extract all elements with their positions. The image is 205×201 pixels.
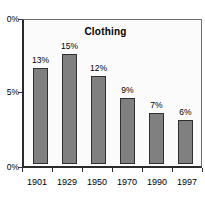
- x-axis-label: 1929: [52, 177, 82, 188]
- bar-value-label: 9%: [113, 86, 142, 95]
- x-tick-mark: [142, 168, 143, 172]
- x-tick-mark: [22, 168, 23, 172]
- bar-value-label: 7%: [142, 101, 171, 110]
- x-tick-mark: [112, 168, 113, 172]
- bar: [149, 113, 164, 164]
- bar-group: 6%: [171, 20, 200, 164]
- x-tick-mark: [172, 168, 173, 172]
- bar-group: 9%: [113, 20, 142, 164]
- x-axis-labels: 190119291950197019901997: [22, 177, 202, 188]
- bar-group: 7%: [142, 20, 171, 164]
- x-axis-label: 1997: [172, 177, 202, 188]
- bar-group: 15%: [55, 20, 84, 164]
- x-axis-label: 1970: [112, 177, 142, 188]
- x-axis-label: 1950: [82, 177, 112, 188]
- y-axis: 0% 5% 0%: [0, 0, 22, 201]
- x-tick-mark: [82, 168, 83, 172]
- x-tick-mark: [202, 168, 203, 172]
- x-axis-label: 1901: [22, 177, 52, 188]
- bar-group: 12%: [84, 20, 113, 164]
- bar-value-label: 13%: [26, 56, 55, 65]
- bar: [120, 98, 135, 164]
- plot-area: Clothing 13%15%12%9%7%6%: [22, 19, 202, 168]
- x-axis-ticks: [22, 168, 202, 173]
- clothing-bar-chart: 0% 5% 0% Clothing 13%15%12%9%7%6% 190119…: [0, 0, 205, 201]
- bar: [62, 54, 77, 164]
- x-tick-mark: [52, 168, 53, 172]
- bar: [178, 120, 193, 164]
- bar-value-label: 12%: [84, 64, 113, 73]
- bar-group: 13%: [26, 20, 55, 164]
- x-axis-label: 1990: [142, 177, 172, 188]
- bar-value-label: 15%: [55, 42, 84, 51]
- bar-series: 13%15%12%9%7%6%: [26, 20, 200, 164]
- bar-value-label: 6%: [171, 108, 200, 117]
- bar: [91, 76, 106, 164]
- bar: [33, 68, 48, 164]
